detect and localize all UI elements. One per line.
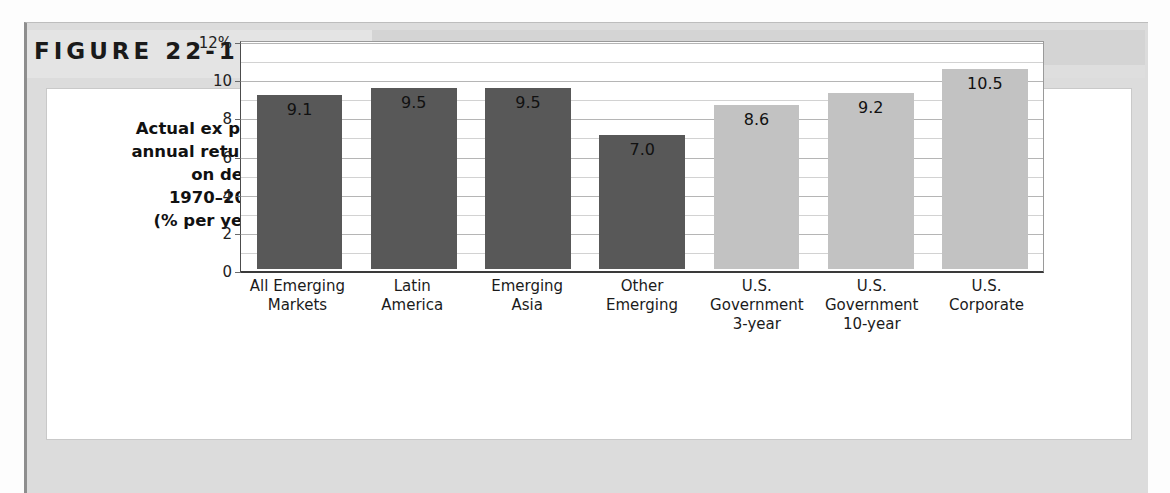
bar-slot: 10.5	[928, 42, 1042, 269]
bar-value-label: 9.5	[371, 93, 457, 112]
y-axis-tick-label: 4	[222, 187, 232, 205]
x-axis-category-line: Emerging	[585, 296, 700, 315]
y-axis-tick-mark	[235, 81, 241, 82]
bar-value-label: 9.5	[485, 93, 571, 112]
bar[interactable]: 9.2	[828, 93, 914, 269]
x-axis-category-line: All Emerging	[240, 277, 355, 296]
y-axis-tick-label: 6	[222, 149, 232, 167]
bars-layer: 9.19.59.57.08.69.210.5	[243, 42, 1043, 269]
y-axis-tick-mark	[235, 196, 241, 197]
bar-slot: 9.5	[357, 42, 471, 269]
x-axis-category-line: 3-year	[699, 315, 814, 334]
x-axis-category-line: America	[355, 296, 470, 315]
x-axis-category-line: Emerging	[470, 277, 585, 296]
x-axis-category-label: EmergingAsia	[470, 277, 585, 334]
x-axis-category-line: Latin	[355, 277, 470, 296]
x-axis-category-labels: All EmergingMarketsLatinAmericaEmergingA…	[240, 277, 1044, 334]
x-axis-category-label: OtherEmerging	[585, 277, 700, 334]
plot-wrapper: 12%1086420 9.19.59.57.08.69.210.5	[240, 41, 1044, 273]
bar[interactable]: 10.5	[942, 69, 1028, 269]
x-axis-category-line: Corporate	[929, 296, 1044, 315]
x-axis-category-line: Other	[585, 277, 700, 296]
figure-root: FIGURE 22-11 Actual ex postannual return…	[0, 0, 1170, 493]
x-axis-category-label: U.S.Corporate	[929, 277, 1044, 334]
y-axis-title-line: 1970–2000	[61, 186, 269, 209]
bar-slot: 7.0	[585, 42, 699, 269]
y-axis-title-line: (% per year)	[61, 209, 269, 232]
y-axis-tick-label: 8	[222, 110, 232, 128]
y-axis-tick-label: 0	[222, 263, 232, 281]
bar[interactable]: 9.5	[371, 88, 457, 269]
bar-slot: 8.6	[699, 42, 813, 269]
plot-area: 12%1086420 9.19.59.57.08.69.210.5	[240, 41, 1044, 273]
bar-value-label: 9.2	[828, 98, 914, 117]
bar-value-label: 7.0	[599, 140, 685, 159]
y-axis-tick-mark	[235, 158, 241, 159]
y-axis-tick-label: 2	[222, 225, 232, 243]
bar-value-label: 9.1	[257, 100, 343, 119]
bar-slot: 9.5	[471, 42, 585, 269]
x-axis-category-label: U.S.Government3-year	[699, 277, 814, 334]
y-axis-title: Actual ex postannual returnson debt,1970…	[61, 117, 269, 232]
bar-value-label: 10.5	[942, 74, 1028, 93]
x-axis-category-line: U.S.	[699, 277, 814, 296]
bar-value-label: 8.6	[714, 110, 800, 129]
x-axis-category-label: All EmergingMarkets	[240, 277, 355, 334]
y-axis-tick-label: 12%	[199, 34, 232, 52]
x-axis-category-line: Asia	[470, 296, 585, 315]
y-axis-tick-mark	[235, 119, 241, 120]
y-axis-title-line: annual returns	[61, 140, 269, 163]
x-axis-category-label: U.S.Government10-year	[814, 277, 929, 334]
y-axis-tick-mark	[235, 234, 241, 235]
bar[interactable]: 9.5	[485, 88, 571, 269]
y-axis-title-line: Actual ex post	[61, 117, 269, 140]
x-axis-category-line: Government	[699, 296, 814, 315]
y-axis-tick-mark	[235, 43, 241, 44]
x-axis-category-label: LatinAmerica	[355, 277, 470, 334]
bar-slot: 9.2	[814, 42, 928, 269]
bar[interactable]: 7.0	[599, 135, 685, 269]
x-axis-category-line: Government	[814, 296, 929, 315]
x-axis-category-line: 10-year	[814, 315, 929, 334]
y-axis-title-line: on debt,	[61, 163, 269, 186]
caption-sliver	[46, 476, 746, 493]
x-axis-category-line: U.S.	[814, 277, 929, 296]
x-axis-category-line: U.S.	[929, 277, 1044, 296]
bar[interactable]: 8.6	[714, 105, 800, 269]
bar[interactable]: 9.1	[257, 95, 343, 269]
y-axis-tick-mark	[235, 272, 241, 273]
bar-slot: 9.1	[243, 42, 357, 269]
x-axis-category-line: Markets	[240, 296, 355, 315]
y-axis-tick-label: 10	[213, 72, 232, 90]
